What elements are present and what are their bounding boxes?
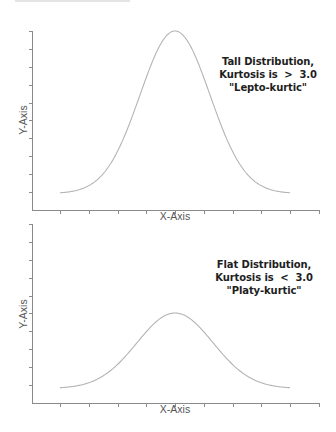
top-y-axis-label: Y-Axis	[17, 105, 29, 134]
bottom-chart: X-Axis Y-Axis	[17, 224, 320, 415]
bottom-y-axis-label: Y-Axis	[17, 299, 29, 328]
bottom-y-ticks	[29, 225, 33, 386]
top-annotation-line1: Tall Distribution,	[208, 55, 328, 68]
bottom-annotation: Flat Distribution, Kurtosis is < 3.0 "Pl…	[204, 258, 324, 297]
top-annotation-line3: "Lepto-kurtic"	[208, 81, 328, 94]
bottom-x-axis-label: X-Axis	[160, 403, 190, 415]
bottom-y-axis	[33, 224, 321, 404]
top-x-axis-label: X-Axis	[160, 210, 190, 222]
top-annotation-line2: Kurtosis is > 3.0	[208, 68, 328, 81]
bottom-annotation-line3: "Platy-kurtic"	[204, 284, 324, 297]
bottom-annotation-line1: Flat Distribution,	[204, 258, 324, 271]
top-annotation: Tall Distribution, Kurtosis is > 3.0 "Le…	[208, 55, 328, 94]
top-y-ticks	[29, 32, 33, 193]
bottom-annotation-line2: Kurtosis is < 3.0	[204, 271, 324, 284]
flat-distribution-curve	[60, 313, 290, 388]
